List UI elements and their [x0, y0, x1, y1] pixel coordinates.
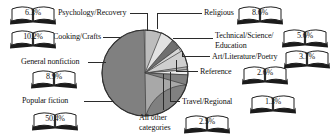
book-badge-religious: 8.6%: [236, 4, 284, 26]
leader-line-travel-regional-arm: [170, 101, 180, 102]
leader-line-religious-drop: [157, 13, 158, 29]
pie-chart: [101, 29, 189, 117]
pie-chart-figure: Psychology/Recovery Cooking/Crafts Gener…: [0, 0, 331, 138]
category-label-all-other-categories: All other: [139, 113, 167, 123]
leader-line-psychology-recovery-drop: [147, 13, 148, 31]
leader-line-art-literature-poetry: [182, 56, 210, 57]
percent-value: 8.6%: [236, 8, 284, 17]
category-label-technical-science-education-line2: Education: [215, 41, 247, 51]
category-label-travel-regional: Travel/Regional: [182, 97, 232, 107]
leader-line-reference-drop: [176, 60, 177, 71]
leader-line-psychology-recovery: [130, 13, 148, 14]
leader-line-general-nonfiction: [88, 62, 106, 63]
book-badge-general-nonfiction: 8.9%: [30, 68, 78, 90]
category-label-psychology-recovery: Psychology/Recovery: [58, 8, 126, 18]
category-label-popular-fiction: Popular fiction: [22, 96, 68, 106]
percent-value: 8.9%: [30, 72, 78, 81]
book-badge-art-literature-poetry: 3.7%: [283, 48, 331, 70]
leader-line-travel-regional: [170, 72, 171, 101]
leader-line-reference: [176, 71, 198, 72]
category-label-cooking-crafts: Cooking/Crafts: [53, 32, 101, 42]
leader-line-religious: [157, 13, 202, 14]
percent-value: 1.3%: [249, 97, 297, 106]
book-badge-travel-regional: 1.3%: [249, 93, 297, 115]
percent-value: 50.4%: [31, 114, 79, 123]
leader-line-cooking-crafts: [103, 37, 121, 38]
percent-value: 6.3%: [9, 8, 57, 17]
pie-svg: [101, 29, 189, 117]
category-label-technical-science-education: Technical/Science/: [215, 31, 274, 41]
book-badge-popular-fiction: 50.4%: [31, 110, 79, 132]
book-badge-cooking-crafts: 10.2%: [9, 28, 57, 50]
category-label-general-nonfiction: General nonfiction: [21, 57, 79, 67]
leader-line-all-other-categories: [163, 74, 164, 110]
leader-line-popular-fiction: [84, 101, 114, 102]
book-badge-reference: 2.6%: [241, 64, 289, 86]
leader-line-art-literature-poetry-drop: [182, 51, 183, 56]
category-label-reference: Reference: [200, 67, 232, 77]
percent-value: 2.5%: [183, 117, 231, 126]
percent-value: 3.7%: [283, 52, 331, 61]
category-label-art-literature-poetry: Art/Literature/Poetry: [212, 52, 277, 62]
book-badge-technical-science-education: 5.6%: [281, 27, 329, 49]
leader-line-technical-science-education: [173, 38, 213, 39]
percent-value: 10.2%: [9, 32, 57, 41]
category-label-all-other-categories-line2: categories: [139, 123, 170, 133]
book-badge-psychology-recovery: 6.3%: [9, 4, 57, 26]
percent-value: 2.6%: [241, 68, 289, 77]
percent-value: 5.6%: [281, 31, 329, 40]
book-badge-all-other-categories: 2.5%: [183, 113, 231, 135]
category-label-religious: Religious: [204, 8, 234, 18]
